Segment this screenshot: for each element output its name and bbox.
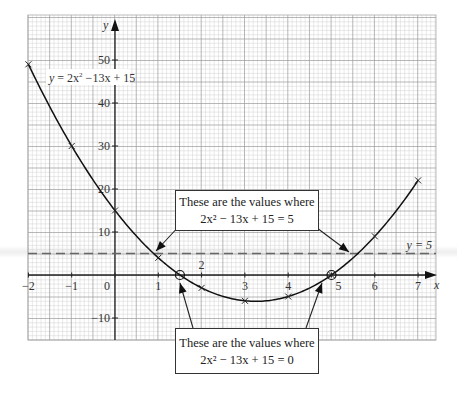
cross-marker-icon xyxy=(199,285,205,291)
callout-bottom-line2: 2x² − 13x + 15 = 0 xyxy=(176,352,318,369)
callout-equals-zero: These are the values where 2x² − 13x + 1… xyxy=(175,328,319,374)
x-tick-label: 2 xyxy=(199,258,205,272)
cross-marker-icon xyxy=(155,255,161,261)
x-axis-label: x xyxy=(433,278,440,292)
y-tick-label: −10 xyxy=(91,311,110,325)
x-tick-label: 3 xyxy=(242,279,248,293)
cross-marker-icon xyxy=(415,177,421,183)
callout-top-line2: 2x² − 13x + 15 = 5 xyxy=(176,211,318,228)
callout-bottom-line1: These are the values where xyxy=(176,335,318,352)
callout-equals-five: These are the values where 2x² − 13x + 1… xyxy=(175,190,319,231)
x-tick-label: 7 xyxy=(415,279,421,293)
y-axis-arrow-icon xyxy=(111,19,119,31)
x-tick-label: 6 xyxy=(372,279,378,293)
line-label-y-equals-5: y = 5 xyxy=(406,238,432,252)
curve-label: y = 2x2 −13x + 15 xyxy=(48,71,135,85)
curve-label-group: y = 2x2 −13x + 15 xyxy=(46,69,135,85)
x-tick-label: 1 xyxy=(155,279,161,293)
x-tick-label: −1 xyxy=(65,279,78,293)
callout-top-line1: These are the values where xyxy=(176,194,318,211)
x-tick-label: −2 xyxy=(22,279,35,293)
x-tick-label: 4 xyxy=(285,279,291,293)
x-tick-label: 5 xyxy=(336,279,342,293)
y-tick-label: 50 xyxy=(98,53,110,67)
axes: xy xyxy=(28,18,440,340)
x-tick-label: 0 xyxy=(104,279,110,293)
quadratic-curve xyxy=(28,64,418,301)
cross-marker-icon xyxy=(372,233,378,239)
y-tick-label: 40 xyxy=(98,96,110,110)
y-axis-label: y xyxy=(102,18,109,32)
cross-marker-icon xyxy=(69,143,75,149)
y-tick-label: 10 xyxy=(98,225,110,239)
y-tick-label: 30 xyxy=(98,139,110,153)
arrow-to-x-5-6-head-icon xyxy=(339,243,349,252)
